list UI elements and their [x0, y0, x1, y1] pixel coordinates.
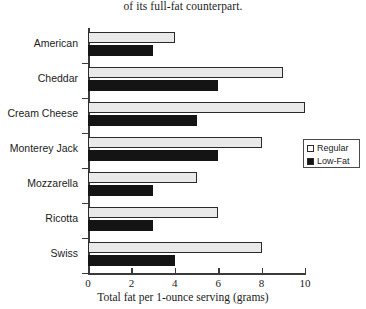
plot-area: [88, 28, 305, 273]
bar-regular: [88, 102, 305, 113]
category-label: Swiss: [0, 247, 78, 259]
bar-group: [88, 168, 305, 203]
bar-group: [88, 133, 305, 168]
x-axis-tick-label: 8: [247, 277, 277, 289]
bar-group: [88, 238, 305, 273]
x-axis-tick-label: 2: [116, 277, 146, 289]
legend-label-lowfat: Low-Fat: [317, 156, 350, 166]
bar-group: [88, 98, 305, 133]
category-label: Cheddar: [0, 72, 78, 84]
category-label: Ricotta: [0, 212, 78, 224]
bar-group: [88, 63, 305, 98]
category-label: Monterey Jack: [0, 142, 78, 154]
bar-regular: [88, 67, 283, 78]
bar-regular: [88, 172, 197, 183]
chart-legend: Regular Low-Fat: [303, 139, 360, 168]
bar-group: [88, 203, 305, 238]
bar-regular: [88, 242, 262, 253]
x-axis-title: Total fat per 1-ounce serving (grams): [0, 291, 366, 303]
x-axis-tick: [305, 268, 306, 274]
regular-swatch-icon: [307, 145, 314, 152]
legend-item-lowfat: Low-Fat: [307, 155, 359, 167]
bar-lowfat: [88, 115, 197, 126]
chart-caption: of its full-fat counterpart.: [0, 0, 366, 12]
bar-lowfat: [88, 45, 153, 56]
category-axis-labels: AmericanCheddarCream CheeseMonterey Jack…: [0, 28, 82, 273]
bar-regular: [88, 137, 262, 148]
category-label: Cream Cheese: [0, 107, 78, 119]
chart-page: of its full-fat counterpart. AmericanChe…: [0, 0, 366, 309]
category-label: American: [0, 37, 78, 49]
bar-lowfat: [88, 150, 218, 161]
bar-lowfat: [88, 255, 175, 266]
x-axis-line: [88, 273, 306, 275]
bar-lowfat: [88, 80, 218, 91]
x-axis-tick-label: 0: [73, 277, 103, 289]
x-axis-tick-label: 6: [203, 277, 233, 289]
bar-lowfat: [88, 220, 153, 231]
x-axis-tick-label: 4: [160, 277, 190, 289]
bar-lowfat: [88, 185, 153, 196]
legend-item-regular: Regular: [307, 142, 359, 154]
bar-regular: [88, 207, 218, 218]
bar-group: [88, 28, 305, 63]
x-axis-tick-label: 10: [290, 277, 320, 289]
lowfat-swatch-icon: [307, 158, 314, 165]
category-label: Mozzarella: [0, 177, 78, 189]
legend-label-regular: Regular: [317, 143, 349, 153]
bar-regular: [88, 32, 175, 43]
